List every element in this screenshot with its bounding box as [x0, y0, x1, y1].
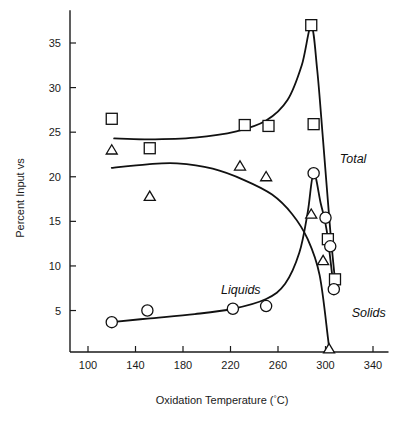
data-point-triangle	[234, 161, 245, 170]
data-point-circle	[325, 241, 336, 252]
curve-liquids	[112, 173, 334, 322]
y-tick-label: 5	[55, 305, 61, 317]
x-tick-label: 300	[316, 359, 334, 371]
series-label-total: Total	[340, 152, 368, 166]
y-tick-label: 30	[49, 82, 61, 94]
y-axis-title-group: Percent Input vs	[14, 158, 26, 238]
data-point-circle	[142, 305, 153, 316]
data-point-triangle	[106, 145, 117, 154]
axes: 5101520253035100140180220260300340	[49, 10, 389, 371]
data-point-circle	[227, 303, 238, 314]
data-point-square	[308, 119, 319, 130]
y-tick-label: 25	[49, 126, 61, 138]
y-axis-title: Percent Input vs	[14, 158, 26, 238]
x-axis-title: Oxidation Temperature (°C)	[156, 394, 289, 407]
chart-figure: 5101520253035100140180220260300340 Total…	[0, 0, 409, 425]
data-point-circle	[320, 212, 331, 223]
data-point-square	[239, 120, 250, 131]
y-tick-label: 15	[49, 215, 61, 227]
series-curves	[112, 26, 335, 350]
x-tick-label: 340	[364, 359, 382, 371]
series-label-solids: Solids	[352, 306, 386, 320]
series-label-liquids: Liquids	[221, 283, 261, 297]
data-point-circle	[308, 168, 319, 179]
data-point-square	[263, 120, 274, 131]
x-tick-label: 180	[174, 359, 192, 371]
y-tick-label: 20	[49, 171, 61, 183]
chart-plot-area: 5101520253035100140180220260300340 Total…	[0, 0, 409, 425]
series-markers	[106, 20, 340, 353]
data-point-triangle	[318, 255, 329, 264]
x-tick-label: 140	[126, 359, 144, 371]
data-point-circle	[261, 300, 272, 311]
data-point-circle	[106, 317, 117, 328]
data-point-square	[144, 143, 155, 154]
data-point-square	[306, 20, 317, 31]
x-tick-label: 220	[221, 359, 239, 371]
curve-solids	[112, 163, 329, 350]
x-tick-label: 260	[269, 359, 287, 371]
data-point-circle	[328, 284, 339, 295]
data-point-triangle	[144, 191, 155, 200]
data-point-triangle	[261, 172, 272, 181]
y-tick-label: 10	[49, 260, 61, 272]
data-point-square	[106, 113, 117, 124]
y-tick-label: 35	[49, 37, 61, 49]
x-tick-label: 100	[79, 359, 97, 371]
